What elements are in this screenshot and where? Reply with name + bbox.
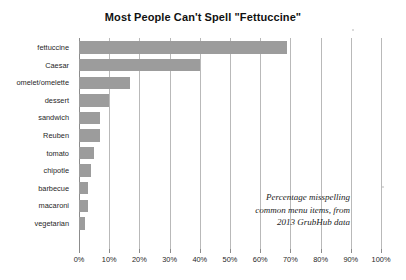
y-tick-label: macaroni bbox=[39, 197, 69, 215]
x-tick-label: 30% bbox=[162, 255, 177, 264]
bar-chart: Most People Can't Spell "Fettuccine" fet… bbox=[0, 0, 406, 280]
bar bbox=[79, 147, 94, 159]
x-tick-label: 10% bbox=[102, 255, 117, 264]
x-tick-mark bbox=[351, 249, 352, 253]
x-tick-label: 0% bbox=[74, 255, 85, 264]
bar bbox=[79, 112, 100, 124]
x-tick-mark bbox=[170, 249, 171, 253]
bar bbox=[79, 94, 109, 106]
x-tick-mark bbox=[381, 249, 382, 253]
x-tick-mark bbox=[260, 249, 261, 253]
y-tick-label: fettuccine bbox=[37, 39, 69, 57]
y-tick-label: Caesar bbox=[45, 57, 69, 75]
scan-speck-right bbox=[382, 186, 384, 188]
scan-speck-top bbox=[352, 29, 354, 31]
x-tick-label: 80% bbox=[313, 255, 328, 264]
x-tick-label: 40% bbox=[192, 255, 207, 264]
y-tick-label: barbecue bbox=[38, 180, 69, 198]
y-tick-label: sandwich bbox=[38, 109, 69, 127]
x-tick-mark bbox=[109, 249, 110, 253]
bar-row bbox=[79, 92, 381, 110]
bar bbox=[79, 164, 91, 176]
bar bbox=[79, 129, 100, 141]
bar-row bbox=[79, 162, 381, 180]
x-tick-label: 90% bbox=[343, 255, 358, 264]
bar bbox=[79, 59, 200, 71]
bar-row bbox=[79, 127, 381, 145]
x-tick-label: 100% bbox=[372, 255, 391, 264]
y-tick-label: tomato bbox=[46, 145, 69, 163]
annotation-line: 2013 GrubHub data bbox=[228, 216, 350, 229]
y-tick-label: dessert bbox=[45, 92, 69, 110]
x-tick-mark bbox=[230, 249, 231, 253]
bar bbox=[79, 41, 287, 53]
bar-row bbox=[79, 145, 381, 163]
x-tick-mark bbox=[139, 249, 140, 253]
x-tick-label: 70% bbox=[283, 255, 298, 264]
x-tick-mark bbox=[79, 249, 80, 253]
y-tick-label: Reuben bbox=[43, 127, 69, 145]
bar-row bbox=[79, 57, 381, 75]
x-tick-label: 50% bbox=[223, 255, 238, 264]
bar-row bbox=[79, 109, 381, 127]
bar-row bbox=[79, 74, 381, 92]
annotation-line: common menu items, from bbox=[228, 204, 350, 217]
y-tick-label: omelet/omelette bbox=[16, 74, 69, 92]
x-tick-mark bbox=[200, 249, 201, 253]
chart-annotation: Percentage misspellingcommon menu items,… bbox=[228, 191, 350, 229]
x-tick-label: 20% bbox=[132, 255, 147, 264]
x-tick-mark bbox=[290, 249, 291, 253]
bar bbox=[79, 77, 130, 89]
x-tick-label: 60% bbox=[253, 255, 268, 264]
x-axis: 0%10%20%30%40%50%60%70%80%90%100% bbox=[79, 249, 381, 271]
bar bbox=[79, 200, 88, 212]
bar-row bbox=[79, 39, 381, 57]
annotation-line: Percentage misspelling bbox=[228, 191, 350, 204]
bar bbox=[79, 217, 85, 229]
gridline-100 bbox=[381, 38, 382, 249]
x-tick-mark bbox=[321, 249, 322, 253]
y-tick-label: vegetarian bbox=[34, 215, 69, 233]
y-axis-category-labels: fettuccineCaesaromelet/omelettedessertsa… bbox=[0, 0, 75, 280]
y-tick-label: chipotle bbox=[44, 162, 69, 180]
bar bbox=[79, 182, 88, 194]
